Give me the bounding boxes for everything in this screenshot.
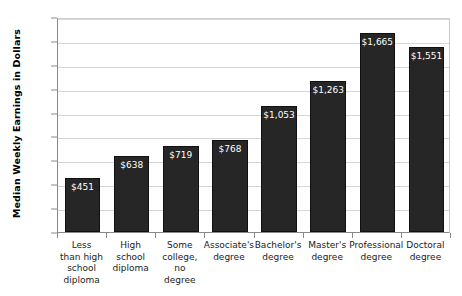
x-axis-category-label: Doctoraldegree: [395, 240, 456, 263]
y-axis-tick-mark: [51, 89, 57, 90]
bar: $768: [212, 140, 248, 232]
bar: $638: [114, 156, 150, 232]
x-axis-labels: Lessthan highschooldiplomaHighschooldipl…: [57, 240, 450, 296]
bar: $1,053: [261, 106, 297, 232]
bar: $451: [65, 178, 101, 232]
y-axis-tick-mark: [51, 65, 57, 66]
bar-value-label: $1,053: [262, 110, 296, 120]
x-axis-tick-mark: [450, 233, 451, 238]
x-axis-tick-mark: [106, 233, 107, 238]
x-axis-tick-mark: [254, 233, 255, 238]
y-axis-tick-mark: [51, 161, 57, 162]
bar: $1,551: [409, 47, 445, 232]
y-axis-title: Median Weekly Earnings in Dollars: [11, 4, 22, 244]
y-axis-tick-mark: [51, 18, 57, 19]
bar-value-label: $638: [115, 160, 149, 170]
x-axis-tick-mark: [155, 233, 156, 238]
bar: $1,665: [360, 33, 396, 232]
bar: $719: [163, 146, 199, 232]
y-axis-tick-mark: [51, 185, 57, 186]
y-axis-tick-mark: [51, 137, 57, 138]
bar: $1,263: [310, 81, 346, 232]
x-axis-tick-mark: [303, 233, 304, 238]
y-axis-tick-mark: [51, 113, 57, 114]
bar-value-label: $719: [164, 150, 198, 160]
bar-value-label: $1,263: [311, 85, 345, 95]
x-axis-tick-mark: [57, 233, 58, 238]
gridline: [58, 19, 449, 20]
x-axis-tick-mark: [204, 233, 205, 238]
bar-chart: Median Weekly Earnings in Dollars $451$6…: [0, 0, 462, 296]
y-axis-tick-mark: [51, 41, 57, 42]
bar-value-label: $1,665: [361, 37, 395, 47]
x-axis-tick-mark: [401, 233, 402, 238]
bar-value-label: $1,551: [410, 51, 444, 61]
bar-value-label: $768: [213, 144, 247, 154]
plot-area: $451$638$719$768$1,053$1,263$1,665$1,551: [57, 18, 450, 233]
x-axis-tick-mark: [352, 233, 353, 238]
y-axis-tick-mark: [51, 209, 57, 210]
bar-value-label: $451: [66, 182, 100, 192]
